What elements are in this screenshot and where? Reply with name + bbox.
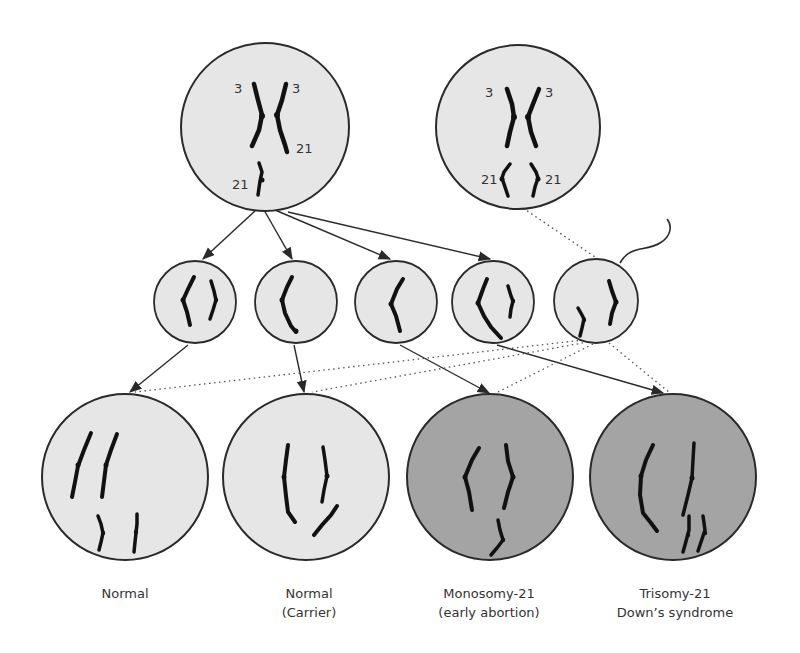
fertilization-arrows [130, 345, 663, 393]
carrier-zygote [223, 394, 389, 560]
outcome-label-carrier-line2: (Carrier) [224, 603, 394, 622]
outcome-label-trisomy-line1: Trisomy-21 [590, 584, 760, 603]
arrow-to-normal [130, 345, 188, 392]
monosomy-zygote [407, 394, 573, 560]
label-chr3-right: 3 [292, 81, 300, 96]
outcome-label-monosomy: Monosomy-21 (early abortion) [404, 584, 574, 622]
label-chr3-right: 3 [545, 85, 553, 100]
gamete-1 [154, 261, 236, 343]
arrow-to-trisomy [497, 345, 663, 393]
outcome-label-monosomy-line1: Monosomy-21 [404, 584, 574, 603]
trisomy-zygote [590, 394, 756, 560]
gamete-3 [355, 261, 437, 343]
meiosis-arrows [203, 210, 490, 259]
outcome-label-monosomy-line2: (early abortion) [404, 603, 574, 622]
label-chr21-right: 21 [545, 172, 562, 187]
sperm-cell [554, 259, 638, 343]
outcome-label-normal: Normal [40, 584, 210, 603]
translocation-diagram: 3 3 21 21 3 3 21 21 [0, 0, 800, 653]
normal-parent-cell: 3 3 21 21 [436, 45, 600, 209]
outcome-label-carrier: Normal (Carrier) [224, 584, 394, 622]
outcome-label-trisomy: Trisomy-21 Down’s syndrome [590, 584, 760, 622]
label-chr21-right: 21 [296, 141, 313, 156]
carrier-parent-cell: 3 3 21 21 [181, 43, 349, 211]
gamete-2 [255, 261, 337, 343]
dotted-line-parent-to-sperm [523, 208, 598, 259]
outcome-label-normal-line1: Normal [40, 584, 210, 603]
arrow-to-carrier [294, 345, 304, 392]
label-chr3-left: 3 [485, 85, 493, 100]
sperm-dotted-lines [135, 340, 670, 393]
label-chr21-left: 21 [232, 177, 249, 192]
arrow-to-gamete-2 [264, 210, 292, 259]
arrow-to-monosomy [400, 345, 489, 393]
arrow-to-gamete-4 [288, 212, 490, 259]
normal-zygote [42, 394, 208, 560]
sperm-tail [620, 219, 670, 263]
arrow-to-gamete-1 [203, 210, 256, 259]
arrow-to-gamete-3 [275, 210, 390, 259]
label-chr3-left: 3 [234, 81, 242, 96]
outcome-label-carrier-line1: Normal [224, 584, 394, 603]
outcome-label-trisomy-line2: Down’s syndrome [590, 603, 760, 622]
gamete-4 [452, 261, 534, 343]
dotted-sperm-to-normal [135, 340, 583, 392]
label-chr21-left: 21 [481, 172, 498, 187]
